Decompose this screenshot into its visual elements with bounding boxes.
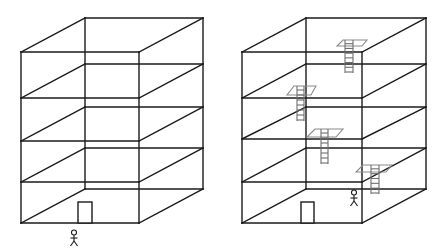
floor-right-side-line <box>362 64 426 98</box>
person-icon <box>71 230 78 246</box>
building-right <box>242 18 426 223</box>
floor-right-side-line <box>139 107 203 141</box>
floor-left-side-line <box>21 18 85 52</box>
person-leg <box>71 241 75 246</box>
ladder-with-hatch <box>287 86 316 121</box>
floor-right-side-line <box>362 18 426 52</box>
ladder-with-hatch <box>307 129 343 164</box>
floor-left-side-line <box>21 189 85 223</box>
building-left <box>21 18 203 246</box>
floor-left-side-line <box>242 64 306 98</box>
ceiling-hatch-icon <box>337 40 367 46</box>
floor-left-side-line <box>242 189 306 223</box>
floor-right-side-line <box>139 148 203 182</box>
floor-left-side-line <box>242 18 306 52</box>
person-leg <box>354 201 358 206</box>
floor-left-side-line <box>21 64 85 98</box>
floor-left-side-line <box>242 148 306 182</box>
person-leg <box>74 241 78 246</box>
floor-left-side-line <box>21 148 85 182</box>
person-head <box>352 190 357 195</box>
floor-right-side-line <box>139 18 203 52</box>
person-leg <box>351 201 355 206</box>
door-icon <box>78 202 92 223</box>
door-icon <box>301 202 314 223</box>
floor-left-side-line <box>21 107 85 141</box>
person-head <box>72 230 77 235</box>
floor-right-side-line <box>139 189 203 223</box>
floor-left-side-line <box>242 107 306 139</box>
person-icon <box>351 190 358 206</box>
floor-right-side-line <box>362 189 426 223</box>
floor-right-side-line <box>139 64 203 98</box>
floor-right-side-line <box>362 107 426 139</box>
building-diagram <box>0 0 442 252</box>
